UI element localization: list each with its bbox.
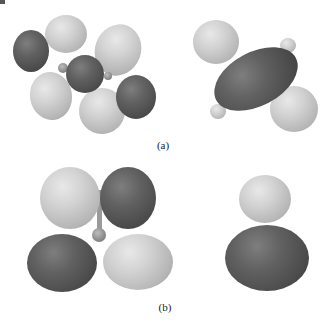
atom bbox=[92, 228, 106, 242]
atom bbox=[104, 72, 112, 80]
dark-lobe bbox=[116, 75, 156, 119]
dark-lobe bbox=[66, 55, 104, 93]
figure: (a) (b) bbox=[0, 0, 327, 323]
light-lobe bbox=[45, 15, 87, 53]
panel-label-a: (a) bbox=[143, 139, 183, 151]
dark-lobe bbox=[225, 225, 309, 291]
dark-lobe bbox=[100, 167, 156, 229]
corner-mark bbox=[0, 0, 5, 4]
dark-lobe bbox=[27, 234, 97, 292]
light-lobe bbox=[40, 167, 100, 229]
dark-lobe bbox=[13, 30, 49, 72]
panel-label-b: (b) bbox=[145, 301, 185, 313]
light-lobe bbox=[103, 234, 173, 290]
light-lobe bbox=[193, 20, 239, 64]
light-lobe bbox=[239, 175, 291, 223]
